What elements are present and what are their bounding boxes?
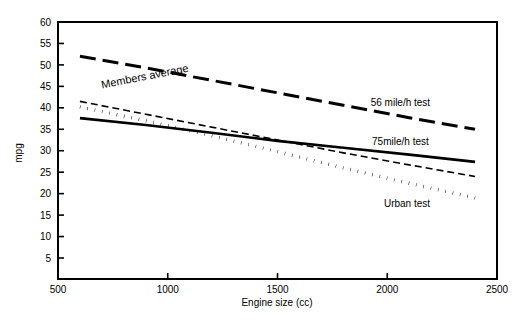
y-tick-label-25: 25 (40, 167, 52, 178)
y-axis-title: mpg (13, 143, 24, 162)
x-tick-label-2000: 2000 (376, 284, 399, 295)
line-chart: 51015202530354045505560 5001000150020002… (0, 0, 529, 327)
y-tick-label-15: 15 (40, 210, 52, 221)
series-label-urban-test: Urban test (384, 198, 430, 209)
y-tick-label-5: 5 (45, 253, 51, 264)
series-label-members-average: Members average (100, 62, 189, 91)
series-label-56-mile-h-test: 56 mile/h test (371, 97, 431, 108)
y-tick-label-45: 45 (40, 81, 52, 92)
y-tick-label-50: 50 (40, 60, 52, 71)
y-tick-label-30: 30 (40, 145, 52, 156)
y-tick-label-60: 60 (40, 17, 52, 28)
plot-frame (58, 22, 497, 279)
series-label-group: 56 mile/h testMembers average75mile/h te… (100, 62, 430, 209)
x-axis-tick-labels: 5001000150020002500 (50, 284, 509, 295)
y-tick-label-55: 55 (40, 38, 52, 49)
series-line-urban-test (80, 107, 475, 198)
chart-figure: 51015202530354045505560 5001000150020002… (0, 0, 529, 327)
y-tick-label-10: 10 (40, 231, 52, 242)
y-tick-label-20: 20 (40, 188, 52, 199)
y-tick-label-35: 35 (40, 124, 52, 135)
x-tick-label-500: 500 (50, 284, 67, 295)
x-tick-label-1500: 1500 (266, 284, 289, 295)
x-tick-label-2500: 2500 (486, 284, 509, 295)
x-axis-title: Engine size (cc) (241, 297, 312, 308)
plot-border (58, 22, 497, 279)
x-tick-label-1000: 1000 (157, 284, 180, 295)
y-axis-tick-labels: 51015202530354045505560 (40, 17, 52, 264)
series-label-75mile-h-test: 75mile/h test (372, 136, 429, 147)
y-tick-label-40: 40 (40, 102, 52, 113)
